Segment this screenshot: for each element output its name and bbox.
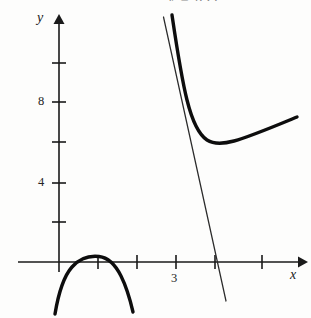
curve-left-branch [55,256,133,314]
curve-right-branch [172,15,297,143]
y-axis-group [54,14,65,272]
y-axis-label: y [37,11,43,25]
x-axis-arrowhead [298,257,308,268]
x-axis-label: x [290,268,296,282]
tangent-line [164,17,227,301]
x-tick-label-3: 3 [171,272,177,285]
y-tick-label-4: 4 [38,176,44,189]
y-axis-arrowhead [54,14,65,24]
graph-canvas [0,0,311,318]
graph-figure: y = f(x) [0,0,311,318]
y-tick-label-8: 8 [38,95,44,108]
x-axis-group [18,257,308,268]
